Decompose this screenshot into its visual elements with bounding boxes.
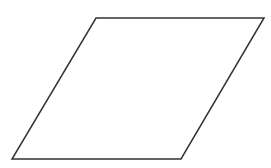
diagram-canvas [0, 0, 271, 168]
background [0, 0, 271, 168]
